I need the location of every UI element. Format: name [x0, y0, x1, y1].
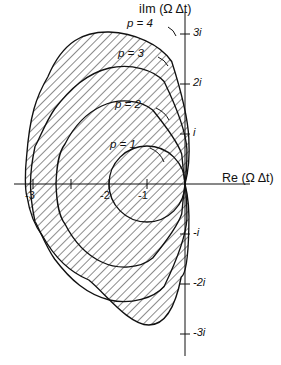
x-tick-label-minus3: -3: [25, 190, 35, 201]
curve-label-p4: p = 4: [127, 18, 153, 30]
x-tick-label-minus1: -1: [138, 190, 148, 201]
curve-label-p1: p = 1: [110, 139, 136, 151]
x-tick-label-minus2: -2: [100, 190, 110, 201]
y-tick-label-i: i: [193, 127, 195, 138]
y-tick-label-minus-2i: -2i: [193, 277, 205, 288]
stability-region-figure: iIm (Ω Δt) Re (Ω Δt) p = 4 p = 3 p = 2 p…: [0, 0, 281, 365]
y-tick-label-2i: 2i: [193, 77, 202, 88]
y-tick-label-3i: 3i: [193, 27, 202, 38]
curve-label-p2: p = 2: [115, 99, 141, 111]
y-tick-label-minus-i: -i: [193, 227, 199, 238]
hatched-stability-regions: [25, 32, 189, 325]
real-axis-title: Re (Ω Δt): [222, 172, 274, 185]
y-tick-label-minus-3i: -3i: [193, 327, 205, 338]
imaginary-axis-title: iIm (Ω Δt): [139, 3, 191, 16]
curve-label-p3: p = 3: [118, 48, 144, 60]
